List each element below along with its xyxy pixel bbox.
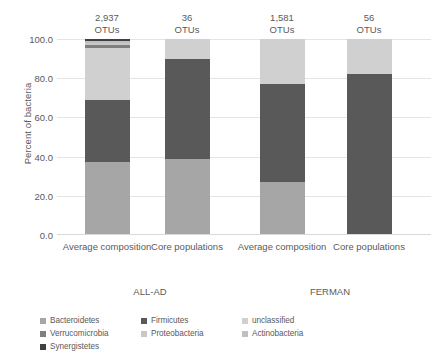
otu-count-value: 56	[357, 12, 382, 24]
otu-count-unit: OTUs	[95, 24, 120, 36]
legend-swatch-icon	[141, 318, 147, 324]
legend-label: Firmicutes	[151, 316, 188, 325]
x-axis-category-label: Core populations	[321, 241, 417, 254]
y-axis-tick-label: 0.0	[7, 230, 53, 241]
legend-label: Bacteroidetes	[50, 316, 99, 325]
x-axis-line	[57, 234, 431, 235]
bar-segment[interactable]	[165, 39, 210, 59]
y-axis-tick-label: 20.0	[7, 190, 53, 201]
otu-count-value: 1,581	[270, 12, 295, 24]
legend-label: Verrucomicrobia	[50, 329, 108, 338]
x-axis-category-label: Average composition	[234, 241, 330, 254]
bar-column[interactable]: 1,581OTUsAverage composition	[260, 39, 305, 235]
legend-label: unclassified	[252, 316, 294, 325]
y-axis-tick-label: 40.0	[7, 151, 53, 162]
bar-stack	[85, 39, 130, 235]
bar-segment[interactable]	[85, 100, 130, 163]
bar-segment[interactable]	[85, 48, 130, 100]
bar-segment[interactable]	[85, 162, 130, 235]
otu-count-label: 2,937OTUs	[95, 12, 120, 35]
otu-count-value: 36	[175, 12, 200, 24]
y-axis-tick-label: 80.0	[7, 73, 53, 84]
otu-count-unit: OTUs	[175, 24, 200, 36]
bar-segment[interactable]	[347, 39, 392, 74]
legend-item[interactable]: Actinobacteria	[242, 329, 343, 338]
bar-segment[interactable]	[165, 159, 210, 235]
otu-count-label: 36OTUs	[175, 12, 200, 35]
legend-label: Proteobacteria	[151, 329, 204, 338]
x-axis-category-label: Core populations	[139, 241, 235, 254]
bar-segment[interactable]	[85, 43, 130, 45]
y-axis-tick-label: 60.0	[7, 112, 53, 123]
bar-segment[interactable]	[85, 41, 130, 43]
bar-stack	[165, 39, 210, 235]
y-axis-tick-label: 100.0	[7, 34, 53, 45]
bar-segment[interactable]	[260, 182, 305, 235]
legend-swatch-icon	[40, 318, 46, 324]
legend-item[interactable]: Bacteroidetes	[40, 316, 141, 325]
otu-count-unit: OTUs	[270, 24, 295, 36]
bar-column[interactable]: 2,937OTUsAverage composition	[85, 39, 130, 235]
bar-segment[interactable]	[347, 74, 392, 235]
chart-legend: BacteroidetesFirmicutesunclassifiedVerru…	[40, 316, 430, 355]
bar-segment[interactable]	[85, 39, 130, 41]
legend-item[interactable]: unclassified	[242, 316, 343, 325]
bar-segment[interactable]	[260, 84, 305, 182]
group-label-ferman: FERMAN	[240, 286, 420, 297]
bar-segment[interactable]	[165, 59, 210, 159]
legend-swatch-icon	[242, 318, 248, 324]
legend-swatch-icon	[242, 331, 248, 337]
plot-area: 2,937OTUsAverage composition36OTUsCore p…	[57, 39, 431, 235]
group-label-all-ad: ALL-AD	[60, 286, 240, 297]
bar-column[interactable]: 36OTUsCore populations	[165, 39, 210, 235]
legend-swatch-icon	[141, 331, 147, 337]
legend-label: Actinobacteria	[252, 329, 303, 338]
bar-stack	[260, 39, 305, 235]
bar-column[interactable]: 56OTUsCore populations	[347, 39, 392, 235]
y-axis-title: Percent of bacteria	[22, 39, 33, 209]
bar-stack	[347, 39, 392, 235]
otu-count-label: 1,581OTUs	[270, 12, 295, 35]
bar-segment[interactable]	[260, 39, 305, 84]
legend-label: Synergistetes	[50, 342, 99, 351]
legend-item[interactable]: Firmicutes	[141, 316, 242, 325]
legend-item[interactable]: Proteobacteria	[141, 329, 242, 338]
bar-segment[interactable]	[85, 45, 130, 48]
legend-swatch-icon	[40, 344, 46, 350]
stacked-bar-chart: Percent of bacteria 0.020.040.060.080.01…	[0, 0, 435, 360]
legend-swatch-icon	[40, 331, 46, 337]
otu-count-value: 2,937	[95, 12, 120, 24]
otu-count-unit: OTUs	[357, 24, 382, 36]
legend-item[interactable]: Verrucomicrobia	[40, 329, 141, 338]
otu-count-label: 56OTUs	[357, 12, 382, 35]
legend-item[interactable]: Synergistetes	[40, 342, 141, 351]
